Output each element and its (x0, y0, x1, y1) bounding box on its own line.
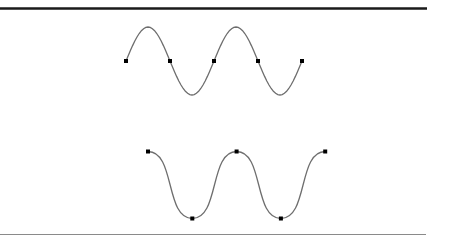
control-point[interactable] (212, 59, 216, 63)
control-point[interactable] (146, 150, 150, 154)
control-point[interactable] (124, 59, 128, 63)
control-point[interactable] (190, 217, 194, 221)
sine-curve (124, 27, 304, 95)
control-point[interactable] (235, 150, 239, 154)
square-wave-curve-path (148, 152, 325, 219)
control-point[interactable] (256, 59, 260, 63)
control-point[interactable] (168, 59, 172, 63)
control-point[interactable] (279, 217, 283, 221)
diagram-canvas (0, 0, 451, 245)
control-point[interactable] (323, 150, 327, 154)
control-point[interactable] (300, 59, 304, 63)
square-wave-curve (146, 150, 327, 221)
